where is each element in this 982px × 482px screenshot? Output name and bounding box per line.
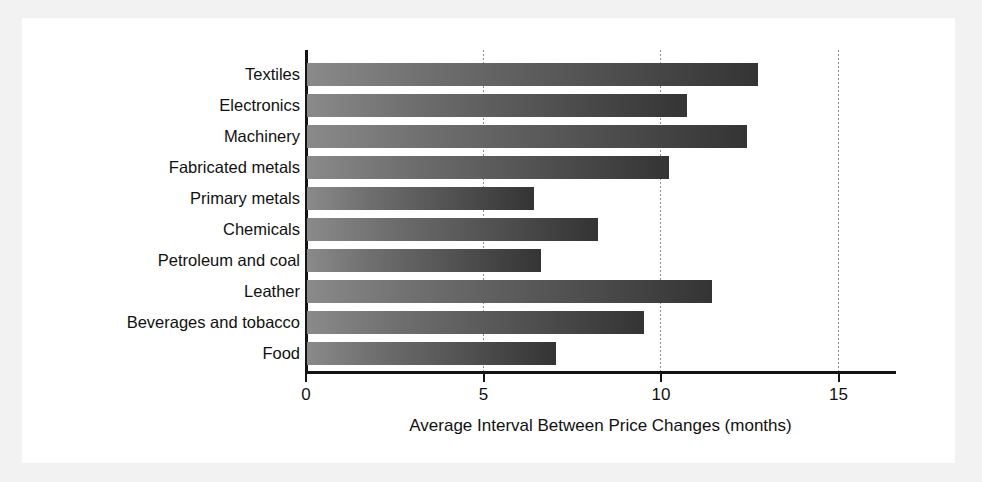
bar-row: Petroleum and coal xyxy=(22,249,955,272)
x-tick-10 xyxy=(660,371,662,382)
bar-food xyxy=(307,342,556,365)
bar-row: Leather xyxy=(22,280,955,303)
bar-row: Primary metals xyxy=(22,187,955,210)
bar-electronics xyxy=(307,94,687,117)
bar-petroleum-and-coal xyxy=(307,249,541,272)
bar-row: Fabricated metals xyxy=(22,156,955,179)
category-label-beverages-and-tobacco: Beverages and tobacco xyxy=(127,311,300,334)
category-label-leather: Leather xyxy=(244,280,300,303)
bar-fabricated-metals xyxy=(307,156,669,179)
x-tick-label-5: 5 xyxy=(479,385,488,405)
bar-textiles xyxy=(307,63,758,86)
category-label-textiles: Textiles xyxy=(245,63,300,86)
category-label-food: Food xyxy=(262,342,300,365)
x-axis-line xyxy=(305,371,896,374)
figure-container: 051015 TextilesElectronicsMachineryFabri… xyxy=(0,0,982,482)
bar-row: Chemicals xyxy=(22,218,955,241)
x-tick-5 xyxy=(483,371,485,382)
x-tick-0 xyxy=(305,371,307,382)
category-label-fabricated-metals: Fabricated metals xyxy=(169,156,300,179)
bar-row: Machinery xyxy=(22,125,955,148)
x-tick-label-0: 0 xyxy=(301,385,310,405)
x-tick-label-15: 15 xyxy=(829,385,848,405)
bar-primary-metals xyxy=(307,187,534,210)
category-label-chemicals: Chemicals xyxy=(223,218,300,241)
bar-row: Textiles xyxy=(22,63,955,86)
category-label-electronics: Electronics xyxy=(219,94,300,117)
bar-row: Food xyxy=(22,342,955,365)
plot-area: 051015 TextilesElectronicsMachineryFabri… xyxy=(22,18,955,463)
x-axis-title: Average Interval Between Price Changes (… xyxy=(305,416,896,436)
bar-row: Beverages and tobacco xyxy=(22,311,955,334)
category-label-petroleum-and-coal: Petroleum and coal xyxy=(158,249,300,272)
x-tick-label-10: 10 xyxy=(652,385,671,405)
bar-machinery xyxy=(307,125,747,148)
bar-beverages-and-tobacco xyxy=(307,311,644,334)
chart-panel: 051015 TextilesElectronicsMachineryFabri… xyxy=(22,18,955,463)
category-label-primary-metals: Primary metals xyxy=(190,187,300,210)
category-label-machinery: Machinery xyxy=(224,125,300,148)
bar-leather xyxy=(307,280,712,303)
bar-row: Electronics xyxy=(22,94,955,117)
x-tick-15 xyxy=(838,371,840,382)
bar-chemicals xyxy=(307,218,598,241)
